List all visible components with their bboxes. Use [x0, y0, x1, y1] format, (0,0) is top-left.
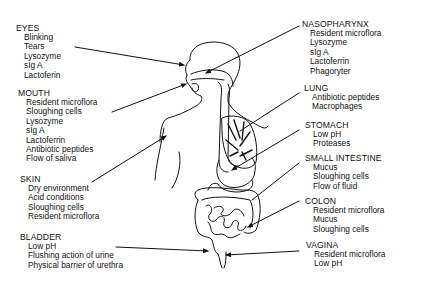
arm-line-right — [172, 152, 180, 188]
label-item: Resident microflora — [20, 212, 99, 221]
label-item: Flow of saliva — [18, 154, 97, 163]
label-vagina: VAGINA Resident microflora Low pH — [306, 240, 385, 269]
label-item: Macrophages — [304, 102, 379, 111]
pointer-lung — [240, 93, 299, 131]
label-eyes: EYES Blinking Tears Lysozyme sIg A Lacto… — [16, 23, 61, 80]
label-lung: LUNG Antibiotic peptides Macrophages — [304, 83, 379, 112]
label-item: Flow of fluid — [305, 182, 382, 191]
label-mouth: MOUTH Resident microflora Sloughing cell… — [18, 88, 97, 164]
label-item: Proteases — [305, 139, 350, 148]
pointer-vagina — [226, 251, 299, 255]
label-item: Physical barrier of urethra — [20, 261, 123, 270]
chin-neck-outline — [160, 75, 202, 142]
label-item: Phagoryter — [302, 67, 381, 76]
nasal-cavity — [191, 70, 233, 86]
rectum — [218, 252, 226, 268]
small-intestine — [206, 205, 246, 238]
label-small-intestine: SMALL INTESTINE Mucus Sloughing cells Fl… — [305, 153, 382, 191]
pointer-eyes — [75, 47, 184, 65]
label-item: Lactoferin — [16, 71, 61, 80]
palate — [191, 79, 224, 81]
label-skin: SKIN Dry environment Acid conditions Slo… — [20, 174, 99, 222]
esophagus — [218, 82, 228, 172]
stomach-outline — [217, 158, 256, 188]
arm-line-left — [155, 128, 164, 180]
pointer-mouth — [112, 84, 186, 112]
label-stomach: STOMACH Low pH Proteases — [305, 120, 350, 149]
pointer-skin — [92, 136, 166, 182]
trachea — [228, 84, 238, 166]
label-colon: COLON Resident microflora Mucus Sloughin… — [305, 196, 384, 234]
label-item: Low pH — [306, 259, 385, 268]
label-item: Sloughing cells — [305, 225, 384, 234]
label-bladder: BLADDER Low pH Flushing action of urine … — [20, 232, 123, 270]
pointer-colon — [248, 201, 299, 227]
tongue — [192, 83, 199, 91]
pointer-small-intestine — [252, 163, 299, 200]
pointer-bladder — [116, 247, 208, 251]
label-nasopharynx: NASOPHARYNX Resident microflora Lysozyme… — [302, 19, 381, 76]
pointer-nasopharynx — [206, 26, 299, 73]
colon-inner — [202, 197, 253, 228]
